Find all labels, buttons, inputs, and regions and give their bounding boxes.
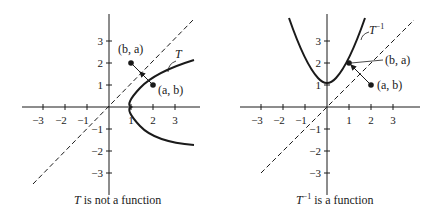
x-tick-labels: −3 −2 −1 1 2 3 — [251, 114, 396, 126]
svg-text:−3: −3 — [251, 114, 263, 126]
identity-line — [33, 20, 193, 184]
relation-t-curve — [129, 60, 194, 145]
svg-text:3: 3 — [390, 114, 396, 126]
svg-text:−2: −2 — [91, 145, 103, 157]
svg-text:−1: −1 — [309, 123, 321, 135]
inverse-relation-diagram: −3 −2 −1 1 2 3 3 2 1 −1 −2 −3 (b, a) (a,… — [0, 0, 440, 216]
svg-text:−3: −3 — [91, 167, 103, 179]
svg-text:1: 1 — [346, 114, 352, 126]
svg-text:−2: −2 — [309, 145, 321, 157]
svg-text:2: 2 — [98, 57, 104, 69]
svg-text:2: 2 — [316, 57, 322, 69]
svg-text:−1: −1 — [295, 114, 307, 126]
svg-text:3: 3 — [172, 114, 178, 126]
svg-text:−1: −1 — [91, 123, 103, 135]
svg-text:3: 3 — [98, 35, 104, 47]
point-ba-label: (b, a) — [385, 53, 410, 67]
point-ab — [150, 82, 156, 88]
svg-text:−1: −1 — [77, 114, 89, 126]
point-ab-label: (a, b) — [158, 83, 183, 97]
svg-text:3: 3 — [316, 35, 322, 47]
curve-t-label: T — [175, 47, 183, 61]
right-caption: T−1 is a function — [296, 192, 374, 208]
left-caption: T is not a function — [74, 192, 161, 208]
reflection-arrow — [351, 65, 371, 85]
curve-t-inverse-label: T−1 — [369, 22, 384, 37]
svg-text:−2: −2 — [55, 114, 67, 126]
left-graph: −3 −2 −1 1 2 3 3 2 1 −1 −2 −3 (b, a) (a,… — [22, 14, 200, 195]
svg-text:−2: −2 — [273, 114, 285, 126]
x-tick-labels: −3 −2 −1 1 2 3 — [32, 114, 178, 126]
svg-text:1: 1 — [98, 79, 104, 91]
identity-line — [261, 20, 414, 173]
svg-text:−3: −3 — [309, 167, 321, 179]
svg-text:−3: −3 — [32, 114, 44, 126]
svg-text:2: 2 — [368, 114, 374, 126]
svg-text:2: 2 — [150, 114, 156, 126]
point-ba — [346, 60, 352, 66]
curve-t-inverse-leader — [361, 32, 369, 40]
reflection-arrow — [140, 72, 148, 80]
point-ab-label: (a, b) — [377, 78, 402, 92]
point-ba-leader — [351, 60, 383, 63]
right-graph: −3 −2 −1 1 2 3 3 2 1 −1 −2 −3 (b, a) (a,… — [240, 14, 420, 195]
point-ba-label: (b, a) — [118, 42, 143, 56]
